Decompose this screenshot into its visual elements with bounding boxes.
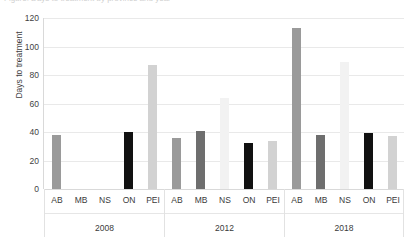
y-tick-label-80: 80 <box>30 70 39 80</box>
bar-2018-ab <box>292 28 301 189</box>
bar-2012-pei <box>268 141 277 189</box>
bar-2018-pei <box>388 136 397 189</box>
x-tick-label-on-2008: ON <box>123 195 136 205</box>
x-group-2012: ABMBNSONPEI2012 <box>164 189 284 237</box>
x-axis-band: ABMBNSONPEI2008ABMBNSONPEI2012ABMBNSONPE… <box>44 189 404 237</box>
x-tick-label-mb-2018: MB <box>315 195 328 205</box>
bar-2012-ns <box>220 98 229 189</box>
bar-chart: Figure: Days to treatment by province an… <box>0 0 416 243</box>
x-tick-label-ab-2018: AB <box>291 195 302 205</box>
y-tick-label-100: 100 <box>25 42 39 52</box>
bar-2012-on <box>244 143 253 189</box>
y-tick-label-120: 120 <box>25 13 39 23</box>
x-tick-label-ab-2012: AB <box>171 195 182 205</box>
clipped-title: Figure: Days to treatment by province an… <box>0 0 416 7</box>
x-tick-label-pei-2008: PEI <box>146 195 160 205</box>
category-labels: ABMBNSONPEI <box>45 189 164 214</box>
category-labels: ABMBNSONPEI <box>285 189 403 214</box>
group-label-2018: 2018 <box>285 214 403 233</box>
bar-2012-ab <box>172 138 181 189</box>
bar-2008-ab <box>52 135 61 189</box>
x-tick-label-on-2012: ON <box>243 195 256 205</box>
x-tick-label-on-2018: ON <box>363 195 376 205</box>
x-tick-label-ns-2012: NS <box>219 195 231 205</box>
clipped-title-text: Figure: Days to treatment by province an… <box>0 0 416 3</box>
bar-2018-mb <box>316 135 325 189</box>
x-tick-label-mb-2008: MB <box>75 195 88 205</box>
bar-2018-on <box>364 133 373 189</box>
y-tick-label-20: 20 <box>30 156 39 166</box>
y-tick-label-0: 0 <box>34 184 39 194</box>
x-tick-label-pei-2012: PEI <box>266 195 280 205</box>
bar-series <box>44 18 404 189</box>
x-tick-label-ns-2018: NS <box>339 195 351 205</box>
x-tick-label-ns-2008: NS <box>99 195 111 205</box>
plot-area: 020406080100120 <box>44 18 404 189</box>
y-axis-title: Days to treatment <box>14 0 24 130</box>
group-label-2012: 2012 <box>165 214 284 233</box>
bar-2018-ns <box>340 62 349 189</box>
x-group-2018: ABMBNSONPEI2018 <box>284 189 404 237</box>
y-tick-label-60: 60 <box>30 99 39 109</box>
bar-2008-pei <box>148 65 157 189</box>
x-tick-label-mb-2012: MB <box>195 195 208 205</box>
x-tick-label-pei-2018: PEI <box>386 195 400 205</box>
category-labels: ABMBNSONPEI <box>165 189 284 214</box>
bar-2012-mb <box>196 131 205 189</box>
x-tick-label-ab-2008: AB <box>51 195 62 205</box>
bar-2008-on <box>124 132 133 189</box>
group-label-2008: 2008 <box>45 214 164 233</box>
y-tick-label-40: 40 <box>30 127 39 137</box>
x-group-2008: ABMBNSONPEI2008 <box>44 189 164 237</box>
